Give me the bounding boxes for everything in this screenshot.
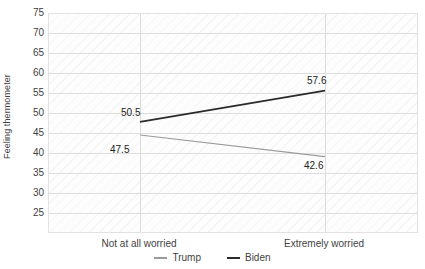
y-tick-label: 45	[20, 128, 44, 138]
chart-legend: Trump Biden	[0, 252, 425, 263]
y-tick-label: 50	[20, 108, 44, 118]
y-axis-tick-labels: 75 70 65 60 55 50 45 40 35 30 25	[18, 0, 44, 269]
line-chart: Feeling thermometer 75 70 65 60 55 50 45…	[0, 0, 425, 269]
plot-area: 50.5 47.5 57.6 42.6	[48, 13, 418, 233]
data-label-biden-left: 50.5	[121, 108, 140, 118]
legend-swatch-biden	[227, 257, 240, 259]
y-tick-label: 55	[20, 88, 44, 98]
legend-swatch-trump	[154, 257, 167, 259]
y-tick-label: 35	[20, 168, 44, 178]
y-axis-title: Feeling thermometer	[0, 0, 14, 233]
legend-item-trump[interactable]: Trump	[154, 252, 201, 263]
data-label-trump-left: 47.5	[110, 145, 129, 155]
series-line-trump	[140, 135, 325, 157]
legend-label-biden: Biden	[245, 252, 271, 263]
series-lines	[49, 14, 418, 233]
x-tick-label-extremely-worried: Extremely worried	[284, 238, 364, 249]
data-label-trump-right: 42.6	[304, 161, 323, 171]
legend-item-biden[interactable]: Biden	[227, 252, 271, 263]
y-tick-label: 75	[20, 8, 44, 18]
y-tick-label: 60	[20, 68, 44, 78]
y-tick-label: 65	[20, 48, 44, 58]
data-label-biden-right: 57.6	[307, 76, 326, 86]
y-tick-label: 70	[20, 28, 44, 38]
series-line-biden	[140, 91, 325, 122]
y-tick-label: 30	[20, 188, 44, 198]
y-tick-label: 40	[20, 148, 44, 158]
y-tick-label: 25	[20, 208, 44, 218]
legend-label-trump: Trump	[172, 252, 201, 263]
x-tick-label-not-at-all-worried: Not at all worried	[101, 238, 176, 249]
